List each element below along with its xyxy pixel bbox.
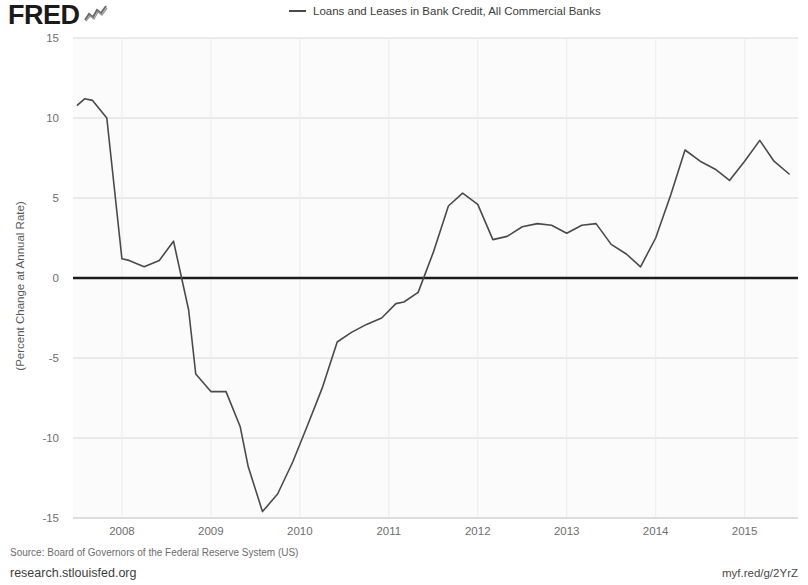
chart-svg: 151050-5-10-1520082009201020112012201320… — [0, 0, 808, 585]
source-note: Source: Board of Governors of the Federa… — [10, 547, 298, 558]
x-axis-tick-label: 2014 — [643, 525, 669, 537]
x-axis-tick-label: 2011 — [376, 525, 401, 537]
y-axis-tick-label: 10 — [46, 112, 59, 124]
x-axis-tick-label: 2010 — [287, 525, 313, 537]
x-axis-tick-label: 2009 — [198, 525, 224, 537]
fred-chart-page: FRED Loans and Leases in Bank Credit, Al… — [0, 0, 808, 585]
y-axis-tick-label: 0 — [53, 272, 59, 284]
x-axis-tick-label: 2013 — [554, 525, 580, 537]
x-axis-tick-label: 2012 — [465, 525, 491, 537]
y-axis-tick-label: -5 — [49, 352, 59, 364]
site-url[interactable]: research.stlouisfed.org — [10, 566, 136, 580]
y-axis-tick-label: -10 — [42, 432, 59, 444]
y-axis-tick-label: -15 — [42, 512, 59, 524]
y-axis-tick-label: 15 — [46, 32, 59, 44]
x-axis-tick-label: 2008 — [109, 525, 135, 537]
chart-plot-area: 151050-5-10-1520082009201020112012201320… — [0, 0, 808, 585]
short-url[interactable]: myf.red/g/2YrZ — [722, 567, 798, 579]
x-axis-tick-label: 2015 — [732, 525, 758, 537]
y-axis-tick-label: 5 — [53, 192, 59, 204]
y-axis-title: (Percent Change at Annual Rate) — [14, 201, 26, 371]
